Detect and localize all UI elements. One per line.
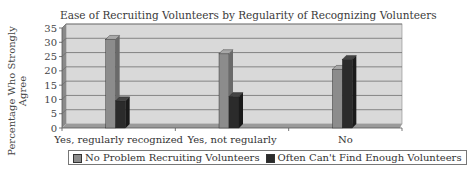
svg-text:20: 20 (44, 65, 57, 76)
legend: No Problem Recruiting Volunteers Often C… (68, 150, 467, 165)
svg-text:30: 30 (44, 37, 57, 48)
svg-text:No: No (338, 134, 353, 145)
legend-label-2: Often Can't Find Enough Volunteers (278, 152, 462, 163)
svg-text:Yes, regularly recognized: Yes, regularly recognized (53, 134, 183, 145)
legend-item-no-problem: No Problem Recruiting Volunteers (73, 152, 260, 163)
svg-text:25: 25 (44, 51, 57, 62)
svg-text:Yes, not regularly: Yes, not regularly (186, 134, 276, 145)
svg-text:5: 5 (51, 108, 57, 119)
svg-text:10: 10 (44, 94, 57, 105)
legend-swatch-dark (266, 154, 275, 163)
svg-text:0: 0 (51, 123, 57, 134)
legend-label-1: No Problem Recruiting Volunteers (85, 152, 260, 163)
legend-swatch-light (73, 154, 82, 163)
svg-text:15: 15 (44, 80, 57, 91)
legend-item-often-cant-find: Often Can't Find Enough Volunteers (266, 152, 462, 163)
svg-text:35: 35 (44, 23, 57, 34)
